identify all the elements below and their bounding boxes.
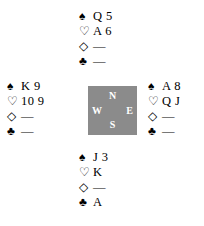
diamond-icon: ◇ (7, 109, 20, 124)
hand-south-diamonds: — (92, 180, 106, 195)
hand-west-spades-row: ♠ K 9 (7, 79, 44, 94)
hand-south-diamonds-row: ◇ — (79, 180, 108, 195)
hand-north-diamonds-row: ◇ — (79, 39, 113, 54)
spade-icon: ♠ (79, 150, 92, 165)
compass-label-west: W (92, 106, 102, 116)
hand-east-diamonds-row: ◇ — (148, 109, 181, 124)
hand-south-clubs: A (92, 195, 102, 210)
diamond-icon: ◇ (79, 39, 92, 54)
heart-icon: ♡ (79, 165, 92, 180)
hand-west-clubs-row: ♣ — (7, 124, 44, 139)
compass-label-east: E (126, 106, 133, 116)
compass-label-north: N (88, 91, 137, 101)
hand-east-hearts-row: ♡ Q J (148, 94, 181, 109)
hand-north-clubs-row: ♣ — (79, 54, 113, 69)
heart-icon: ♡ (79, 24, 92, 39)
diamond-icon: ◇ (79, 180, 92, 195)
heart-icon: ♡ (148, 94, 161, 109)
spade-icon: ♠ (79, 9, 92, 24)
club-icon: ♣ (7, 124, 20, 139)
hand-north-spades: Q 5 (92, 9, 113, 24)
hand-east-clubs-row: ♣ — (148, 124, 181, 139)
hand-south: ♠ J 3 ♡ K ◇ — ♣ A (79, 150, 108, 210)
bridge-hand-diagram: ♠ Q 5 ♡ A 6 ◇ — ♣ — ♠ K 9 ♡ 10 9 ◇ — (0, 0, 204, 226)
hand-north-spades-row: ♠ Q 5 (79, 9, 113, 24)
hand-east-spades: A 8 (161, 79, 181, 94)
spade-icon: ♠ (148, 79, 161, 94)
hand-west: ♠ K 9 ♡ 10 9 ◇ — ♣ — (7, 79, 44, 139)
spade-icon: ♠ (7, 79, 20, 94)
hand-south-hearts: K (92, 165, 102, 180)
compass-box: N W E S (88, 86, 137, 135)
heart-icon: ♡ (7, 94, 20, 109)
hand-north-hearts-row: ♡ A 6 (79, 24, 113, 39)
hand-west-hearts: 10 9 (20, 94, 44, 109)
hand-west-spades: K 9 (20, 79, 41, 94)
hand-east: ♠ A 8 ♡ Q J ◇ — ♣ — (148, 79, 181, 139)
diamond-icon: ◇ (148, 109, 161, 124)
club-icon: ♣ (148, 124, 161, 139)
club-icon: ♣ (79, 54, 92, 69)
hand-west-clubs: — (20, 124, 34, 139)
hand-south-hearts-row: ♡ K (79, 165, 108, 180)
hand-south-clubs-row: ♣ A (79, 195, 108, 210)
hand-north-hearts: A 6 (92, 24, 112, 39)
hand-west-diamonds-row: ◇ — (7, 109, 44, 124)
hand-east-diamonds: — (161, 109, 175, 124)
hand-west-hearts-row: ♡ 10 9 (7, 94, 44, 109)
hand-east-clubs: — (161, 124, 175, 139)
hand-south-spades: J 3 (92, 150, 108, 165)
hand-north: ♠ Q 5 ♡ A 6 ◇ — ♣ — (79, 9, 113, 69)
compass-label-south: S (88, 120, 137, 130)
hand-north-diamonds: — (92, 39, 106, 54)
hand-east-spades-row: ♠ A 8 (148, 79, 181, 94)
club-icon: ♣ (79, 195, 92, 210)
hand-east-hearts: Q J (161, 94, 180, 109)
hand-south-spades-row: ♠ J 3 (79, 150, 108, 165)
hand-west-diamonds: — (20, 109, 34, 124)
hand-north-clubs: — (92, 54, 106, 69)
